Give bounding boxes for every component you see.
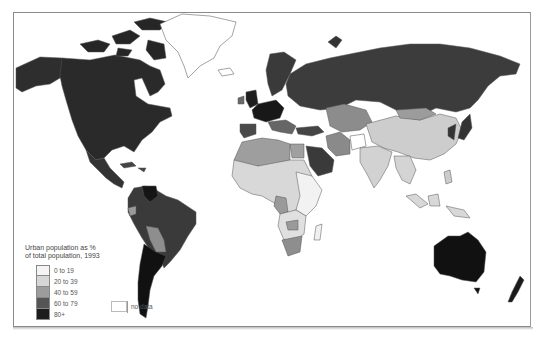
region-congo bbox=[274, 196, 288, 214]
legend-swatch bbox=[36, 265, 50, 276]
legend-title-line1: Urban population as % bbox=[25, 244, 155, 252]
region-arctic-islands bbox=[80, 18, 168, 60]
region-uk bbox=[246, 90, 258, 108]
legend-title: Urban population as % of total populatio… bbox=[25, 244, 155, 260]
legend-swatch bbox=[36, 309, 50, 320]
legend-divider bbox=[127, 301, 128, 313]
legend-label: 40 to 59 bbox=[54, 289, 78, 296]
frame-shadow bbox=[13, 327, 533, 330]
legend-label: 80+ bbox=[54, 311, 65, 318]
region-kazakhstan bbox=[326, 104, 372, 132]
region-philippines bbox=[444, 170, 452, 184]
legend-item: 0 to 19 bbox=[25, 265, 155, 276]
region-turkey bbox=[296, 126, 324, 136]
region-egypt bbox=[290, 144, 304, 158]
map-legend: Urban population as % of total populatio… bbox=[25, 244, 155, 320]
region-greenland bbox=[160, 14, 236, 78]
legend-swatch bbox=[36, 276, 50, 287]
legend-label: 20 to 39 bbox=[54, 278, 78, 285]
region-southeast-asia bbox=[394, 156, 416, 184]
legend-swatch bbox=[36, 298, 50, 309]
region-ireland bbox=[238, 96, 244, 104]
region-east-africa bbox=[296, 172, 322, 216]
region-iceland bbox=[218, 68, 234, 76]
legend-label-no-data: no data bbox=[131, 303, 153, 310]
legend-swatch-no-data bbox=[111, 301, 127, 312]
region-zambia bbox=[286, 220, 298, 230]
legend-item: 80+ bbox=[25, 309, 155, 320]
region-saudi-arabia bbox=[306, 146, 334, 176]
legend-item: 20 to 39 bbox=[25, 276, 155, 287]
region-indonesia bbox=[406, 194, 470, 218]
region-new-zealand bbox=[508, 276, 524, 302]
region-madagascar bbox=[314, 224, 322, 240]
region-india bbox=[360, 146, 392, 188]
legend-label: 0 to 19 bbox=[54, 267, 74, 274]
legend-swatch bbox=[36, 287, 50, 298]
legend-title-line2: of total population, 1993 bbox=[25, 252, 155, 260]
region-russia bbox=[286, 44, 520, 116]
legend-label: 60 to 79 bbox=[54, 300, 78, 307]
region-tasmania bbox=[474, 288, 480, 294]
region-caribbean bbox=[120, 162, 146, 172]
region-canada-usa bbox=[60, 55, 172, 160]
region-novaya-zemlya bbox=[328, 36, 342, 48]
region-iberia bbox=[240, 124, 256, 138]
region-iran bbox=[326, 132, 350, 156]
legend-classes: 0 to 19 20 to 39 40 to 59 60 to 79 80+ bbox=[25, 265, 155, 320]
region-australia bbox=[434, 232, 486, 282]
legend-item: 40 to 59 bbox=[25, 287, 155, 298]
region-italy-balkans bbox=[268, 120, 296, 134]
